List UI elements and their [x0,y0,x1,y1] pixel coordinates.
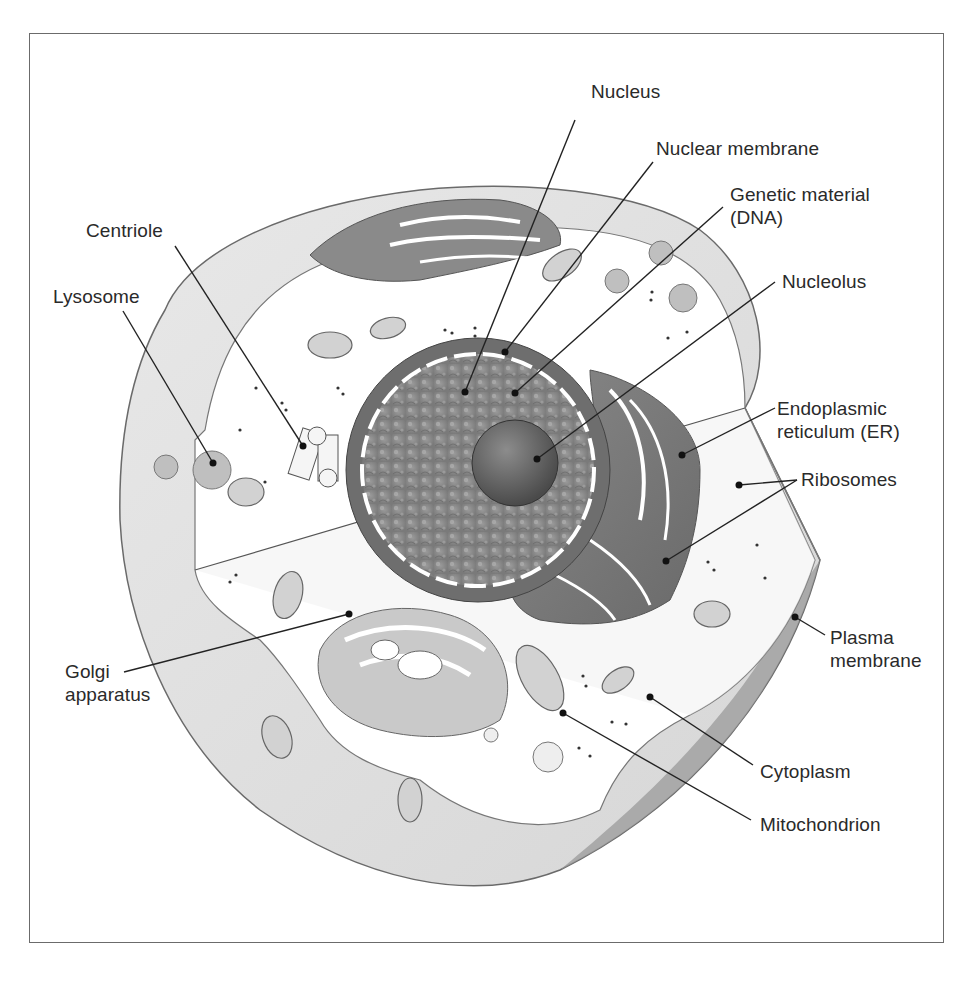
leader-dot-plasma-membrane [792,614,799,621]
label-mitochondrion: Mitochondrion [760,813,881,836]
leader-dot-endoplasmic-reticulum [679,452,686,459]
label-genetic-material: Genetic material (DNA) [730,183,870,229]
label-centriole: Centriole [86,219,163,242]
leader-dot-centriole [300,443,307,450]
nucleus [346,338,610,602]
leader-dot-lysosome [210,460,217,467]
leader-dot-cytoplasm [647,694,654,701]
leader-dot-genetic-material [512,390,519,397]
leader-dot-ribosomes [663,558,670,565]
leader-dot-nucleolus [534,456,541,463]
leader-dot-nuclear-membrane [502,349,509,356]
label-nucleolus: Nucleolus [782,270,866,293]
label-golgi-apparatus: Golgi apparatus [65,660,150,706]
leader-dot-golgi-apparatus [346,611,353,618]
leader-dot-nucleus [462,389,469,396]
label-plasma-membrane: Plasma membrane [830,626,922,672]
leader-dot-mitochondrion [560,710,567,717]
label-nucleus: Nucleus [591,80,660,103]
nucleolus [472,420,558,506]
label-nuclear-membrane: Nuclear membrane [656,137,819,160]
leader-dot-ribosomes [736,482,743,489]
label-lysosome: Lysosome [53,285,140,308]
label-cytoplasm: Cytoplasm [760,760,851,783]
label-ribosomes: Ribosomes [801,468,897,491]
leader-line-plasma-membrane [795,617,825,635]
label-endoplasmic-reticulum: Endoplasmic reticulum (ER) [777,397,900,443]
